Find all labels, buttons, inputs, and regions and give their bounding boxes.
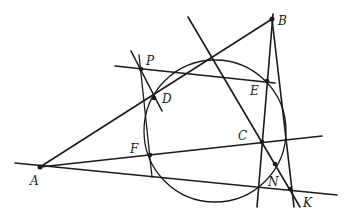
point-p [139, 67, 144, 72]
label-e: E [249, 84, 259, 98]
point-e [265, 79, 270, 84]
label-k: K [302, 196, 313, 210]
point-k [288, 187, 293, 192]
point-f [148, 153, 153, 158]
label-f: F [129, 142, 139, 156]
label-a: A [29, 174, 39, 188]
geometry-diagram: A B C D E F N K P [0, 0, 349, 220]
label-p: P [145, 54, 155, 68]
point-a [38, 165, 43, 170]
point-b [270, 17, 275, 22]
label-d: D [161, 92, 172, 106]
label-n: N [267, 175, 279, 189]
label-b: B [277, 14, 287, 28]
line-pf [139, 55, 152, 177]
point-d [152, 96, 157, 101]
point-n [273, 162, 278, 167]
label-c: C [238, 129, 247, 143]
point-c [260, 140, 265, 145]
